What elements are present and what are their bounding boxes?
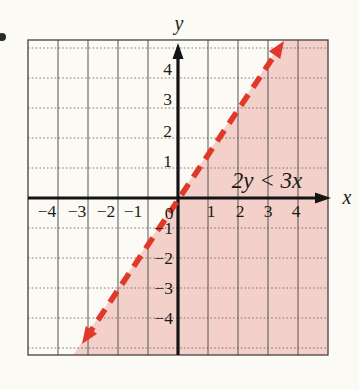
y-tick-label: −3 bbox=[154, 278, 173, 298]
x-tick-label: −2 bbox=[97, 201, 116, 221]
y-tick-label: 1 bbox=[163, 151, 172, 171]
x-tick-label: 1 bbox=[207, 201, 216, 221]
graph-canvas: −4 −3 −2 −1 0 1 2 3 4 4 3 2 1 −1 −2 −3 −… bbox=[0, 0, 359, 389]
problem-number-dot bbox=[0, 33, 6, 41]
inequality-label: 2y < 3x bbox=[232, 168, 303, 193]
y-tick-label: −2 bbox=[154, 248, 173, 268]
x-tick-label: −1 bbox=[124, 201, 143, 221]
y-tick-label: −4 bbox=[154, 308, 173, 328]
y-tick-labels: 4 3 2 1 −1 −2 −3 −4 bbox=[154, 59, 173, 328]
y-tick-label: 4 bbox=[163, 59, 172, 79]
x-tick-label: −3 bbox=[68, 201, 87, 221]
x-tick-label: 2 bbox=[236, 201, 245, 221]
x-axis-label: x bbox=[342, 186, 352, 208]
inequality-graph-figure: −4 −3 −2 −1 0 1 2 3 4 4 3 2 1 −1 −2 −3 −… bbox=[0, 0, 359, 389]
y-tick-label: 2 bbox=[163, 121, 172, 141]
x-tick-label: 4 bbox=[292, 201, 301, 221]
x-tick-label: −4 bbox=[38, 201, 57, 221]
y-tick-label: −1 bbox=[154, 218, 173, 238]
y-tick-label: 3 bbox=[163, 89, 172, 109]
y-axis-label: y bbox=[173, 12, 184, 35]
x-tick-label: 3 bbox=[264, 201, 273, 221]
y-axis-arrowhead-icon bbox=[173, 43, 184, 59]
